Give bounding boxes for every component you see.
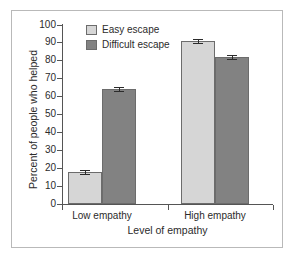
error-bar-cap-top (193, 39, 203, 40)
legend-swatch-icon-difficult-escape (86, 40, 97, 50)
legend-item-easy-escape: Easy escape (86, 24, 170, 35)
error-bar-cap-top (80, 170, 90, 171)
y-tick-mark (57, 132, 62, 133)
legend-item-difficult-escape: Difficult escape (86, 39, 170, 50)
x-tick-label: Low empathy (57, 210, 147, 221)
legend-label-difficult-escape: Difficult escape (102, 39, 170, 50)
y-tick-mark (57, 150, 62, 151)
bar (68, 172, 102, 204)
plot-area: 0102030405060708090100 Low empathyHigh e… (0, 0, 294, 259)
error-bar-cap-bottom (114, 91, 124, 92)
chart-legend: Easy escape Difficult escape (86, 24, 170, 54)
y-axis-title: Percent of people who helped (28, 35, 39, 205)
legend-swatch-icon-easy-escape (86, 25, 97, 35)
y-tick-mark (57, 96, 62, 97)
y-tick-mark (57, 78, 62, 79)
error-bar-cap-top (227, 55, 237, 56)
error-bar (114, 87, 124, 91)
bar-chart-figure: 0102030405060708090100 Low empathyHigh e… (0, 0, 294, 259)
error-bar-cap-bottom (193, 43, 203, 44)
x-tick-mark (168, 205, 169, 210)
x-tick-mark (273, 205, 274, 210)
bar (181, 41, 215, 204)
y-tick-label: 100 (28, 20, 56, 30)
x-axis-title: Level of empathy (62, 225, 273, 236)
y-tick-mark (57, 186, 62, 187)
y-tick-mark (57, 60, 62, 61)
error-bar-cap-bottom (80, 174, 90, 175)
error-bar (193, 39, 203, 43)
error-bar-cap-top (114, 87, 124, 88)
bar (215, 57, 249, 204)
legend-label-easy-escape: Easy escape (102, 24, 159, 35)
y-tick-mark (57, 42, 62, 43)
x-tick-label: High empathy (170, 210, 260, 221)
y-axis-line (62, 24, 63, 205)
error-bar-cap-bottom (227, 59, 237, 60)
y-tick-mark (57, 25, 62, 26)
error-bar (227, 55, 237, 59)
bar (102, 89, 136, 204)
y-tick-mark (57, 168, 62, 169)
y-tick-mark (57, 114, 62, 115)
error-bar (80, 170, 90, 174)
